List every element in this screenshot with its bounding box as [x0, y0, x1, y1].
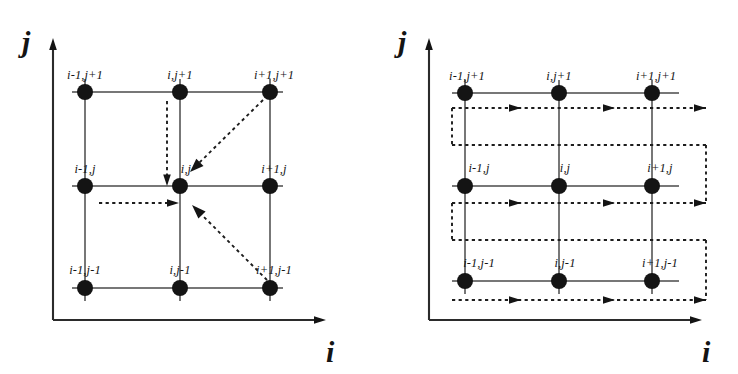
node-dot[interactable]	[262, 178, 278, 194]
sweep-row-2-arrow-c	[694, 199, 706, 207]
node-dot[interactable]	[172, 178, 188, 194]
node-dot[interactable]	[457, 273, 473, 289]
node-dot[interactable]	[457, 178, 473, 194]
node-label-mid-left: i-1,j	[75, 162, 96, 176]
node-dot[interactable]	[77, 280, 93, 296]
node-label-top-left: i-1,j+1	[67, 68, 103, 82]
node-label-top-left: i-1,j+1	[449, 69, 485, 83]
node-dot[interactable]	[644, 273, 660, 289]
sweep-row-3-arrow-b	[603, 296, 615, 304]
node-dot[interactable]	[644, 85, 660, 101]
node-label-bot-left: i-1,j-1	[69, 263, 101, 277]
i-axis-label: i	[702, 335, 711, 368]
node-label-bot-right: i+1,j-1	[642, 256, 678, 270]
node-dot[interactable]	[551, 178, 567, 194]
node-label-top-right: i+1,j+1	[636, 69, 676, 83]
serpentine-sweep-panel: i-1,j+1 i,j+1 i+1,j+1 i-1,j i,j i+1,j i-…	[369, 0, 738, 374]
sweep-row-3-arrow-c	[694, 296, 706, 304]
sweep-row-1-arrow-b	[603, 104, 615, 112]
node-dot[interactable]	[262, 280, 278, 296]
arrow-from-north-head	[163, 175, 171, 187]
node-dot[interactable]	[77, 84, 93, 100]
sweep-row-2-arrow-b	[603, 199, 615, 207]
node-label-mid-center: i,j	[181, 162, 192, 176]
node-label-bot-left: i-1,j-1	[463, 256, 495, 270]
node-label-bot-center: i,j-1	[555, 256, 576, 270]
stencil-dependency-panel: i-1,j+1 i,j+1 i+1,j+1 i-1,j i,j i+1,j i-…	[0, 0, 369, 374]
sweep-row-2-arrow-a	[509, 199, 521, 207]
node-dot[interactable]	[172, 280, 188, 296]
node-dot[interactable]	[551, 85, 567, 101]
node-label-top-right: i+1,j+1	[254, 68, 294, 82]
node-label-bot-center: i,j-1	[170, 263, 191, 277]
node-label-mid-right: i+1,j	[261, 162, 287, 176]
node-dot[interactable]	[262, 84, 278, 100]
j-axis-label: j	[18, 25, 31, 58]
j-axis-arrowhead	[425, 38, 433, 50]
stencil-dependency-svg: i-1,j+1 i,j+1 i+1,j+1 i-1,j i,j i+1,j i-…	[0, 0, 369, 374]
sweep-row-3-arrow-a	[509, 296, 521, 304]
i-axis-arrowhead	[690, 316, 702, 324]
arrow-from-northeast-shaft	[199, 100, 263, 163]
node-label-top-center: i,j+1	[546, 69, 571, 83]
node-label-mid-center: i,j	[560, 161, 571, 175]
i-axis-arrowhead	[314, 316, 326, 324]
serpentine-sweep-path	[452, 104, 706, 304]
i-axis-label: i	[326, 335, 335, 368]
arrow-from-southeast-head	[192, 205, 206, 219]
node-dot[interactable]	[172, 84, 188, 100]
figure-root: i-1,j+1 i,j+1 i+1,j+1 i-1,j i,j i+1,j i-…	[0, 0, 738, 374]
j-axis-label: j	[394, 25, 407, 58]
node-label-top-center: i,j+1	[167, 68, 192, 82]
node-label-mid-left: i-1,j	[469, 161, 490, 175]
node-label-bot-right: i+1,j-1	[256, 263, 292, 277]
node-dot[interactable]	[551, 273, 567, 289]
j-axis-arrowhead	[49, 38, 57, 50]
serpentine-sweep-svg: i-1,j+1 i,j+1 i+1,j+1 i-1,j i,j i+1,j i-…	[369, 0, 738, 374]
node-dot[interactable]	[644, 178, 660, 194]
node-dot[interactable]	[77, 178, 93, 194]
sweep-row-1-arrow-c	[694, 104, 706, 112]
sweep-row-1-arrow-a	[509, 104, 521, 112]
arrow-from-west-head	[167, 199, 179, 207]
node-dot[interactable]	[457, 85, 473, 101]
node-label-mid-right: i+1,j	[647, 161, 673, 175]
